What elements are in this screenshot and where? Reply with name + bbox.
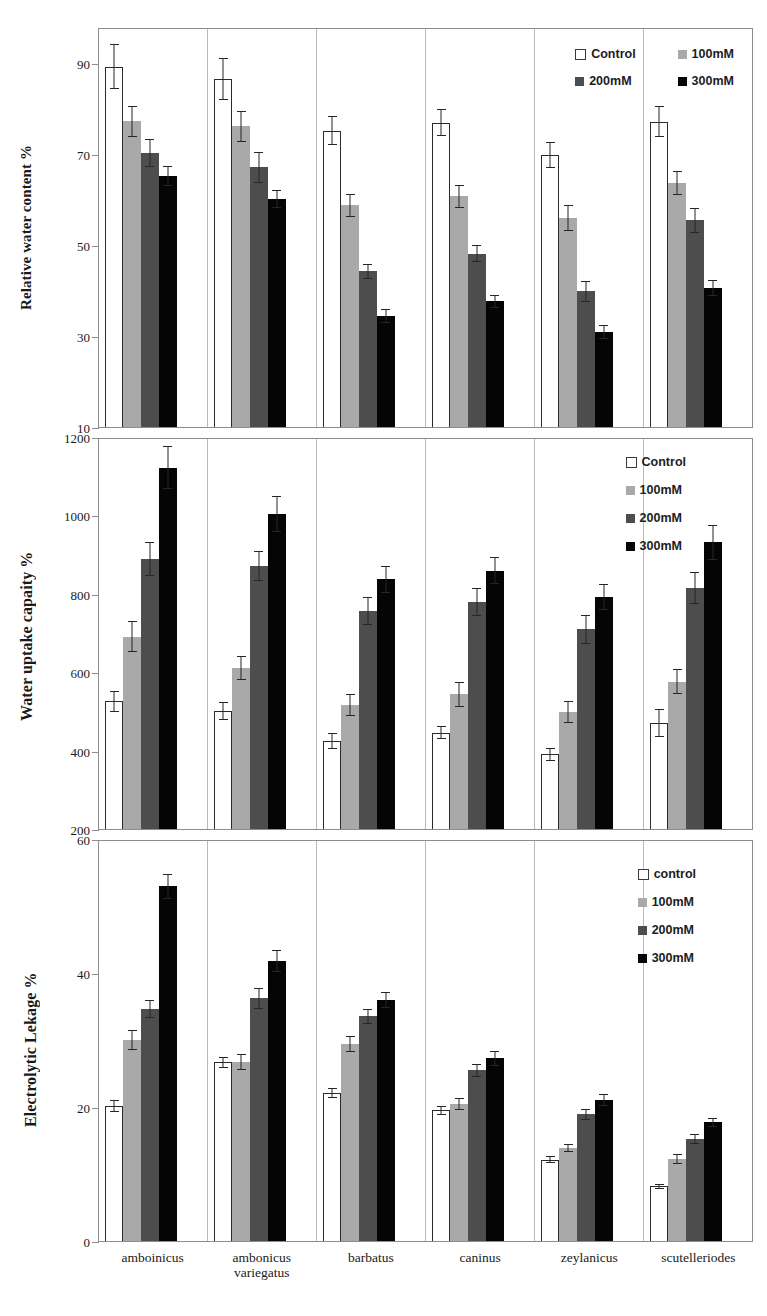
legend-item: 100mM xyxy=(626,483,686,497)
bar-c300 xyxy=(704,288,722,427)
bar-control xyxy=(214,1062,232,1241)
bar-c300 xyxy=(159,468,177,829)
bar-c300 xyxy=(595,332,613,427)
bar-c300 xyxy=(704,542,722,829)
bar-group xyxy=(426,29,535,427)
bar-column xyxy=(377,841,395,1241)
bar-control xyxy=(541,754,559,829)
bar-column xyxy=(650,29,668,427)
x-axis-tick-label: scutelleriodes xyxy=(644,1250,753,1280)
error-bar xyxy=(367,1009,368,1024)
bar-c100 xyxy=(559,1148,577,1241)
error-bar xyxy=(476,588,477,616)
error-bar xyxy=(350,1036,351,1052)
error-bar xyxy=(223,58,224,101)
bar-c300 xyxy=(704,1122,722,1241)
panel-relative-water-content: Relative water content % 1030507090 Cont… xyxy=(0,28,767,428)
legend-item: 200mM xyxy=(626,511,686,525)
panel-c-y-ticks xyxy=(92,840,99,1242)
bar-c300 xyxy=(486,571,504,829)
bar-column xyxy=(141,439,159,829)
error-bar xyxy=(459,682,460,707)
bar-column xyxy=(595,841,613,1241)
bar-column xyxy=(214,841,232,1241)
panel-a-y-tick-labels: 1030507090 xyxy=(36,28,96,428)
error-bar xyxy=(659,1184,660,1189)
bar-column xyxy=(595,439,613,829)
bar-column xyxy=(359,841,377,1241)
bar-column xyxy=(577,439,595,829)
error-bar xyxy=(568,1144,569,1152)
bar-c200 xyxy=(686,588,704,829)
bar-c200 xyxy=(359,271,377,427)
error-bar xyxy=(367,264,368,279)
y-tick-label: 90 xyxy=(77,58,90,71)
legend-item: 200mM xyxy=(638,923,696,937)
bar-column xyxy=(159,841,177,1241)
bar-c200 xyxy=(141,153,159,427)
error-bar xyxy=(276,496,277,532)
bar-column xyxy=(250,841,268,1241)
legend-swatch-icon xyxy=(626,486,635,495)
x-axis-tick-label: zeylanicus xyxy=(535,1250,644,1280)
bar-column xyxy=(577,841,595,1241)
error-bar xyxy=(659,106,660,137)
legend-label: 200mM xyxy=(640,511,682,525)
error-bar xyxy=(441,109,442,136)
error-bar xyxy=(114,1100,115,1112)
bar-c100 xyxy=(559,218,577,427)
panel-electrolytic-leakage: Electrolytic Lekage % 0204060 control100… xyxy=(0,840,767,1242)
bar-c100 xyxy=(123,1040,141,1241)
bar-c300 xyxy=(377,579,395,829)
legend-swatch-icon xyxy=(678,77,687,86)
bar-column xyxy=(268,439,286,829)
error-bar xyxy=(677,669,678,695)
y-tick-label: 1200 xyxy=(64,432,90,445)
bar-column xyxy=(214,29,232,427)
panel-a-y-ticks xyxy=(92,28,99,428)
bar-c300 xyxy=(268,961,286,1241)
y-tick-mark xyxy=(92,438,99,439)
bar-c200 xyxy=(577,291,595,427)
bar-c100 xyxy=(123,121,141,427)
error-bar xyxy=(132,621,133,652)
bar-column xyxy=(250,29,268,427)
bar-control xyxy=(214,79,232,427)
bar-column xyxy=(323,439,341,829)
error-bar xyxy=(350,694,351,715)
bar-column xyxy=(268,29,286,427)
bar-column xyxy=(559,29,577,427)
error-bar xyxy=(385,309,386,323)
y-tick-label: 0 xyxy=(84,1236,91,1249)
bar-control xyxy=(105,701,123,829)
bar-column xyxy=(486,841,504,1241)
bar-group xyxy=(317,841,426,1241)
bar-c100 xyxy=(450,694,468,829)
bar-group xyxy=(208,29,317,427)
panel-a-legend: Control100mM200mM300mM xyxy=(575,47,734,88)
y-tick-mark xyxy=(92,64,99,65)
error-bar xyxy=(585,615,586,644)
bar-column xyxy=(468,841,486,1241)
bar-control xyxy=(650,122,668,427)
legend-swatch-icon xyxy=(626,542,635,551)
y-tick-mark xyxy=(92,673,99,674)
y-tick-mark xyxy=(92,974,99,975)
bar-column xyxy=(268,841,286,1241)
x-axis-tick-label: amboinicus xyxy=(98,1250,207,1280)
error-bar xyxy=(367,597,368,625)
bar-c200 xyxy=(468,254,486,427)
bar-column xyxy=(450,841,468,1241)
bar-column xyxy=(123,29,141,427)
bar-column xyxy=(432,841,450,1241)
legend-swatch-icon xyxy=(638,898,647,907)
error-bar xyxy=(712,1118,713,1127)
error-bar xyxy=(167,874,168,899)
y-tick-mark xyxy=(92,246,99,247)
bar-column xyxy=(486,439,504,829)
bar-c100 xyxy=(668,183,686,427)
legend-item: control xyxy=(638,867,696,881)
bar-column xyxy=(541,841,559,1241)
legend-swatch-icon xyxy=(638,954,647,963)
bar-column xyxy=(341,841,359,1241)
